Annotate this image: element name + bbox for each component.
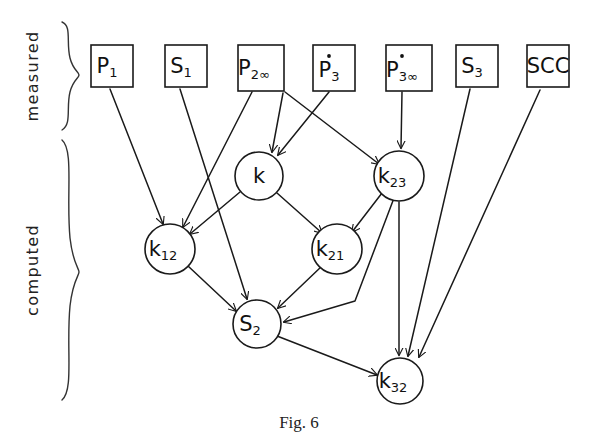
edge-P3inf-to-k23 <box>401 92 402 148</box>
computed-brace <box>62 140 79 400</box>
derivative-dot-P3dot <box>327 54 331 58</box>
computed-node-k21[interactable]: k21 <box>312 224 362 274</box>
computed-label: computed <box>23 224 42 316</box>
measured-node-SCC[interactable]: SCC <box>527 45 570 87</box>
edge-SCC-to-k32 <box>419 90 540 357</box>
measured-node-layer: P1S1P2∞P3P3∞S3SCC <box>91 45 569 91</box>
edge-S3-to-k32 <box>408 89 470 356</box>
computed-node-S2[interactable]: S2 <box>233 300 281 348</box>
computed-node-k23[interactable]: k23 <box>374 151 424 201</box>
computed-node-k12[interactable]: k12 <box>145 224 195 274</box>
group-computed: computed <box>23 140 79 400</box>
diagram-canvas: measured computed P1S1P2∞P3P3∞S3SCC kk23… <box>0 0 598 448</box>
edge-k12-to-S2 <box>188 266 236 311</box>
figure-caption: Fig. 6 <box>279 413 319 432</box>
node-label-k: k <box>253 164 266 188</box>
measured-node-P3inf[interactable]: P3∞ <box>386 45 432 91</box>
edge-S2-to-k32 <box>277 336 377 375</box>
group-measured: measured <box>23 22 79 130</box>
figure-page: measured computed P1S1P2∞P3P3∞S3SCC kk23… <box>0 0 598 448</box>
derivative-dot-P3inf <box>400 54 404 58</box>
measured-node-S3[interactable]: S3 <box>456 45 498 87</box>
measured-brace <box>62 22 79 130</box>
measured-node-P1[interactable]: P1 <box>91 45 133 87</box>
edge-P2inf-to-k <box>272 93 283 152</box>
measured-node-S1[interactable]: S1 <box>165 45 207 87</box>
node-label-SCC: SCC <box>527 54 570 78</box>
computed-node-k32[interactable]: k32 <box>377 358 423 404</box>
edge-k23-to-k21 <box>352 193 382 232</box>
measured-node-P2inf[interactable]: P2∞ <box>238 45 284 91</box>
edge-k-to-k21 <box>277 193 322 233</box>
measured-node-P3dot[interactable]: P3 <box>313 45 355 91</box>
edge-k21-to-S2 <box>278 266 322 308</box>
computed-node-layer: kk23k12k21S2k32 <box>145 151 424 404</box>
edge-P3dot-to-k <box>278 92 329 155</box>
computed-node-k[interactable]: k <box>235 152 283 200</box>
measured-label: measured <box>23 30 42 121</box>
edge-P1-to-k12 <box>110 89 163 224</box>
